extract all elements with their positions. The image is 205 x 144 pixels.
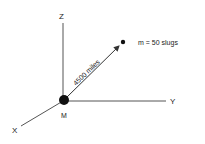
x-axis xyxy=(21,101,63,126)
small-mass-dot xyxy=(121,40,125,44)
x-axis-label: X xyxy=(12,126,18,135)
gravitation-diagram: Z Y X M m = 50 slugs 4500 miles xyxy=(0,0,205,144)
small-mass-label: m = 50 slugs xyxy=(138,39,178,47)
y-axis-label: Y xyxy=(170,97,176,106)
origin-mass-label: M xyxy=(61,112,67,119)
distance-vector-arrow xyxy=(66,46,119,98)
origin-mass-ball xyxy=(59,95,69,105)
z-axis-label: Z xyxy=(59,12,64,21)
distance-label: 4500 miles xyxy=(72,58,102,87)
